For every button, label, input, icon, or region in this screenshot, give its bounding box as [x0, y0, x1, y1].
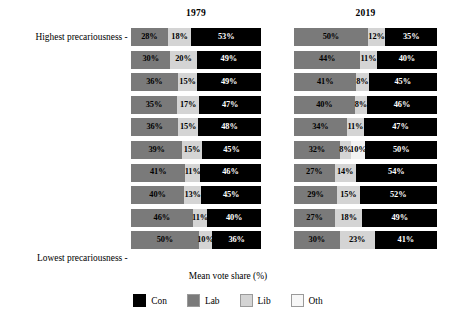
bar-segment-value-label: 35%: [403, 33, 419, 41]
bar-segment-lab: 30%: [131, 51, 170, 69]
bar-segment-lab: 46%: [131, 209, 193, 227]
bar-segment-value-label: 11%: [185, 168, 201, 176]
bar-segment-value-label: 50%: [157, 236, 173, 244]
bar-segment-con: 45%: [202, 141, 261, 159]
bar-segment-value-label: 30%: [309, 236, 325, 244]
legend-label-oth: Oth: [309, 296, 323, 306]
bar-segment-lib: 11%: [360, 51, 377, 69]
bar-segment-value-label: 36%: [228, 236, 244, 244]
bar-row: 32%8%10%50%: [294, 141, 437, 159]
bar-segment-value-label: 44%: [319, 55, 335, 63]
bar-segment-value-label: 45%: [223, 191, 239, 199]
bar-segment-lab: 41%: [131, 164, 185, 182]
bar-segment-value-label: 36%: [146, 78, 162, 86]
bar-segment-value-label: 35%: [146, 101, 162, 109]
bar-segment-lib: 15%: [178, 73, 198, 91]
bar-segment-value-label: 46%: [222, 168, 238, 176]
bar-segment-value-label: 39%: [148, 146, 164, 154]
bar-segment-con: 52%: [360, 186, 437, 204]
bar-segment-value-label: 18%: [171, 33, 187, 41]
bar-segment-con: 53%: [191, 28, 261, 46]
bar-row: 39%15%45%: [131, 141, 261, 159]
bar-segment-value-label: 49%: [221, 78, 237, 86]
bar-segment-value-label: 17%: [180, 101, 196, 109]
legend-label-lib: Lib: [258, 296, 271, 306]
bar-row: 36%15%49%: [131, 73, 261, 91]
bar-segment-lab: 29%: [294, 186, 337, 204]
bar-segment-value-label: 8%: [356, 78, 368, 86]
bar-segment-con: 49%: [197, 73, 261, 91]
bar-segment-con: 45%: [369, 73, 437, 91]
panel-title-1979: 1979: [131, 8, 261, 18]
legend-item-oth[interactable]: Oth: [291, 294, 323, 307]
bar-segment-con: 47%: [199, 96, 261, 114]
legend-item-lab[interactable]: Lab: [187, 294, 220, 307]
bar-row: 35%17%47%: [131, 96, 261, 114]
bar-segment-value-label: 32%: [309, 146, 325, 154]
bar-segment-lab: 40%: [131, 186, 184, 204]
bar-segment-lab: 50%: [294, 28, 368, 46]
bar-segment-value-label: 11%: [347, 123, 363, 131]
stacked-bar-chart: 1979 2019 Highest precariousness - Lowes…: [0, 0, 456, 323]
bar-segment-con: 35%: [385, 28, 437, 46]
bar-row: 41%11%46%: [131, 164, 261, 182]
bar-segment-value-label: 15%: [340, 191, 356, 199]
bar-segment-value-label: 14%: [337, 168, 353, 176]
bar-segment-lab: 36%: [131, 118, 178, 136]
bar-segment-value-label: 8%: [355, 101, 367, 109]
bar-segment-lib: 8%: [356, 73, 368, 91]
y-axis-tick-highest-precariousness: Highest precariousness -: [0, 32, 130, 42]
legend-swatch-icon-lib: [240, 294, 253, 307]
bar-segment-con: 54%: [356, 164, 437, 182]
bar-segment-lab: 27%: [294, 164, 335, 182]
x-axis-label: Mean vote share (%): [0, 271, 456, 281]
legend-item-con[interactable]: Con: [133, 294, 167, 307]
bar-segment-value-label: 41%: [317, 78, 333, 86]
bar-segment-value-label: 54%: [388, 168, 404, 176]
bar-segment-lab: 30%: [294, 231, 340, 249]
bar-segment-value-label: 27%: [306, 168, 322, 176]
bar-segment-value-label: 45%: [395, 78, 411, 86]
bar-segment-value-label: 29%: [307, 191, 323, 199]
legend-item-lib[interactable]: Lib: [240, 294, 271, 307]
bar-segment-value-label: 11%: [360, 55, 376, 63]
bar-row: 30%23%41%: [294, 231, 437, 249]
bar-segment-value-label: 49%: [221, 55, 237, 63]
bar-segment-con: 48%: [198, 118, 261, 136]
bar-segment-lib: 11%: [347, 118, 364, 136]
bar-segment-value-label: 40%: [149, 191, 165, 199]
panel-title-2019: 2019: [294, 8, 437, 18]
bar-segment-lib: 13%: [184, 186, 201, 204]
bar-segment-value-label: 15%: [179, 78, 195, 86]
legend-swatch-icon-con: [133, 294, 146, 307]
bar-segment-con: 41%: [375, 231, 437, 249]
bar-segment-value-label: 46%: [394, 101, 410, 109]
bar-segment-value-label: 50%: [323, 33, 339, 41]
bar-segment-value-label: 46%: [154, 214, 170, 222]
bar-segment-lab: 36%: [131, 73, 178, 91]
bar-segment-value-label: 40%: [399, 55, 415, 63]
y-axis-tick-dash-top: -: [122, 32, 130, 42]
bar-segment-value-label: 15%: [180, 123, 196, 131]
bar-segment-value-label: 11%: [192, 214, 208, 222]
bar-segment-value-label: 47%: [222, 101, 238, 109]
bar-segment-value-label: 18%: [341, 214, 357, 222]
bar-row: 28%18%53%: [131, 28, 261, 46]
bar-row: 27%14%54%: [294, 164, 437, 182]
panel-1979-plot-area: 28%18%53%30%20%49%36%15%49%35%17%47%36%1…: [131, 28, 261, 254]
bar-row: 41%8%45%: [294, 73, 437, 91]
bar-segment-value-label: 10%: [350, 146, 366, 154]
bar-segment-lib: 11%: [193, 209, 208, 227]
bar-segment-lab: 39%: [131, 141, 182, 159]
bar-segment-lib: 18%: [335, 209, 362, 227]
bar-row: 29%15%52%: [294, 186, 437, 204]
bar-segment-value-label: 13%: [184, 191, 200, 199]
panel-2019-plot-area: 50%12%35%44%11%40%41%8%45%40%8%46%34%11%…: [294, 28, 437, 254]
legend-label-lab: Lab: [205, 296, 220, 306]
bar-segment-lib: 23%: [340, 231, 375, 249]
bar-segment-lib: 18%: [168, 28, 192, 46]
bar-segment-lib: 15%: [337, 186, 359, 204]
bar-segment-value-label: 41%: [150, 168, 166, 176]
bar-segment-lib: 15%: [178, 118, 198, 136]
legend-label-con: Con: [151, 296, 167, 306]
